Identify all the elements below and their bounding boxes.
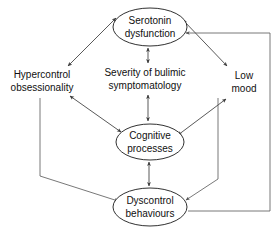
label-severity-line2: symptomatology xyxy=(109,80,182,91)
label-low-mood: Low mood xyxy=(231,70,256,94)
node-serotonin-dysfunction-line2: dysfunction xyxy=(125,28,176,39)
node-serotonin-dysfunction: Serotonin dysfunction xyxy=(113,8,187,46)
label-low-mood-line1: Low xyxy=(235,70,254,81)
edge-lowmood-serotonin xyxy=(183,20,227,66)
node-dyscontrol-behaviours: Dyscontrol behaviours xyxy=(113,188,187,226)
influence-diagram: Serotonin dysfunction Cognitive processe… xyxy=(0,0,280,233)
node-serotonin-dysfunction-line1: Serotonin xyxy=(129,15,172,26)
node-dyscontrol-behaviours-line2: behaviours xyxy=(126,208,175,219)
label-hypercontrol-obsessionality-line2: obsessionality xyxy=(11,82,74,93)
edge-hypercontrol-cognitive xyxy=(70,96,121,132)
edge-lowmood-dyscontrol xyxy=(186,98,218,200)
label-low-mood-line2: mood xyxy=(231,83,256,94)
edge-dyscontrol-serotonin-feedback xyxy=(186,33,270,211)
label-hypercontrol-obsessionality: Hypercontrol obsessionality xyxy=(11,69,74,93)
node-dyscontrol-behaviours-line1: Dyscontrol xyxy=(126,195,173,206)
diagram-canvas: Serotonin dysfunction Cognitive processe… xyxy=(0,0,280,233)
node-cognitive-processes-line1: Cognitive xyxy=(129,130,171,141)
node-cognitive-processes: Cognitive processes xyxy=(116,124,184,160)
edge-hypercontrol-dyscontrol xyxy=(40,98,118,201)
label-hypercontrol-obsessionality-line1: Hypercontrol xyxy=(14,69,71,80)
label-severity-of-bulimic-symptomatology: Severity of bulimic symptomatology xyxy=(104,67,185,91)
edge-hypercontrol-serotonin xyxy=(68,18,116,66)
node-cognitive-processes-line2: processes xyxy=(127,143,173,154)
edge-lowmood-cognitive xyxy=(178,99,226,135)
label-severity-line1: Severity of bulimic xyxy=(104,67,185,78)
